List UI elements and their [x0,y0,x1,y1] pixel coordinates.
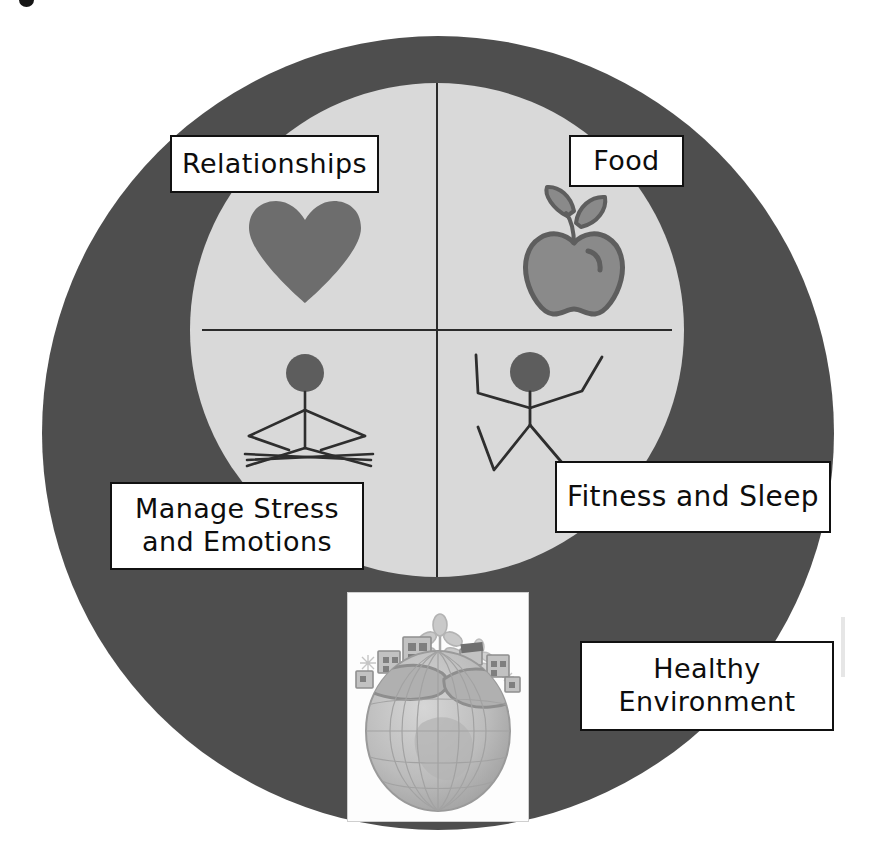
globe-photo-icon [347,592,529,822]
quadrant-divider-horizontal [202,329,672,331]
label-relationships[interactable]: Relationships [170,135,379,193]
label-fitness-and-sleep[interactable]: Fitness and Sleep [555,461,831,533]
label-food[interactable]: Food [569,135,684,187]
label-manage-stress-and-emotions[interactable]: Manage Stress and Emotions [110,482,364,570]
scan-edge-artifact-icon [841,617,845,677]
label-healthy-environment[interactable]: Healthy Environment [580,641,834,731]
diagram-canvas: Relationships Food Manage Stress and Emo… [0,0,876,864]
scan-artifact-icon [19,0,34,7]
